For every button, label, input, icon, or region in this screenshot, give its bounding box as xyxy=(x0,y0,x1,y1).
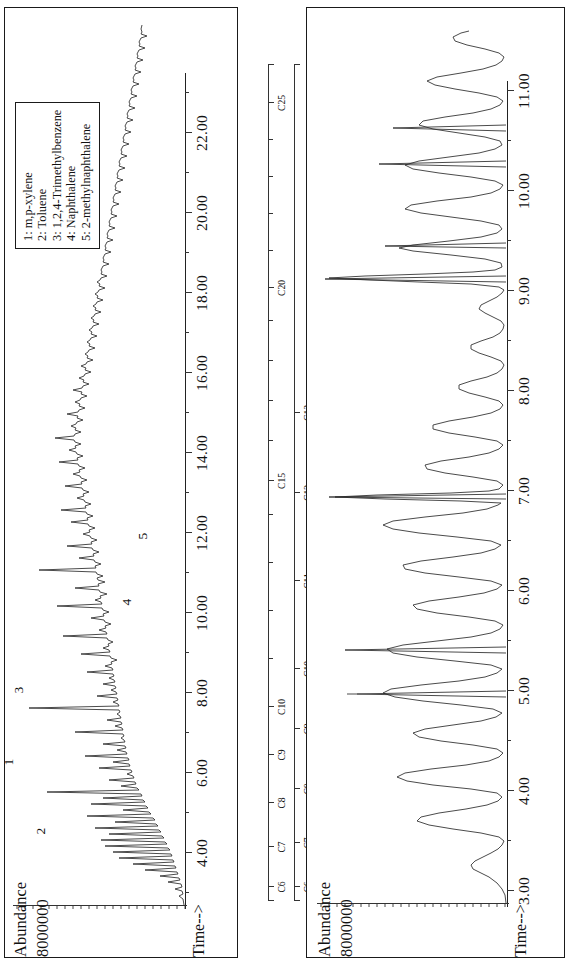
panel-top-y-axis-value: 8000000 xyxy=(33,899,53,957)
panel-bottom-trace-svg xyxy=(321,31,507,903)
x-tick-minor xyxy=(507,140,511,141)
x-tick xyxy=(507,890,514,891)
x-tick-label: 11.00 xyxy=(515,73,533,108)
x-tick-label: 18.00 xyxy=(193,275,211,311)
x-tick xyxy=(185,452,192,453)
x-tick xyxy=(507,490,514,491)
x-tick xyxy=(507,690,514,691)
x-tick-minor xyxy=(507,440,511,441)
x-tick-label: 10.00 xyxy=(193,595,211,631)
x-tick xyxy=(507,90,514,91)
x-tick-minor xyxy=(507,240,511,241)
x-tick-minor xyxy=(507,540,511,541)
panel-top-rotated-canvas: 4.00 6.00 8.00 10.00 12.00 14.00 16.00 1… xyxy=(5,8,239,959)
x-tick-label: 8.00 xyxy=(193,679,211,707)
x-tick xyxy=(185,772,192,773)
x-tick xyxy=(185,372,192,373)
panel-bottom-x-axis-title: Time--> xyxy=(512,904,530,957)
x-tick-label: 4.00 xyxy=(515,777,533,805)
x-tick-label: 5.00 xyxy=(515,677,533,705)
x-tick-label: 9.00 xyxy=(515,277,533,305)
x-tick xyxy=(185,692,192,693)
x-tick-label: 3.00 xyxy=(515,877,533,905)
x-tick-minor xyxy=(185,572,189,573)
x-tick-minor xyxy=(185,732,189,733)
panel-bottom-y-axis-value: 8000000 xyxy=(337,899,357,957)
chromatogram-panel-bottom: 3.00 4.00 5.00 6.00 7.00 8.00 9.00 10.00… xyxy=(306,7,565,958)
x-tick-minor xyxy=(507,840,511,841)
x-tick xyxy=(185,132,192,133)
panel-bottom-rotated-canvas: 3.00 4.00 5.00 6.00 7.00 8.00 9.00 10.00… xyxy=(307,8,566,959)
legend-item: 1: m,p-xylene xyxy=(21,110,35,241)
peak-label-3: 3 xyxy=(11,687,27,694)
x-tick-minor xyxy=(507,740,511,741)
x-tick-minor xyxy=(185,892,189,893)
peak-label-4: 4 xyxy=(119,599,135,606)
x-tick-label: 4.00 xyxy=(193,839,211,867)
peak-label-2: 2 xyxy=(33,828,49,835)
x-tick xyxy=(185,292,192,293)
x-tick xyxy=(507,190,514,191)
legend-item: 3: 1,2,4-Trimethylbenzene xyxy=(50,110,64,241)
legend-item: 5: 2-methylnaphthalene xyxy=(79,110,93,241)
x-tick-label: 7.00 xyxy=(515,477,533,505)
carbon-scale-inner-wrapper: C6 C7 C8 C9 C10 C11 C12 C13 xyxy=(272,0,306,951)
legend-item: 4: Naphthalene xyxy=(64,110,78,241)
x-tick-minor xyxy=(185,92,189,93)
x-tick xyxy=(185,612,192,613)
x-tick-minor xyxy=(507,640,511,641)
panel-bottom-y-axis-title: Abundance xyxy=(315,882,335,957)
x-tick-label: 14.00 xyxy=(193,435,211,471)
peak-label-1: 1 xyxy=(1,759,17,766)
x-tick xyxy=(185,532,192,533)
x-tick xyxy=(185,212,192,213)
x-tick-label: 6.00 xyxy=(193,759,211,787)
x-tick-minor xyxy=(185,492,189,493)
panel-bottom-x-axis-line xyxy=(507,81,508,907)
x-tick-label: 12.00 xyxy=(193,515,211,551)
x-tick xyxy=(507,390,514,391)
panel-top-x-axis-title: Time--> xyxy=(190,904,208,957)
chromatogram-panel-top: 4.00 6.00 8.00 10.00 12.00 14.00 16.00 1… xyxy=(4,7,238,958)
x-tick xyxy=(507,290,514,291)
x-tick-label: 22.00 xyxy=(193,115,211,151)
x-tick xyxy=(507,590,514,591)
x-tick-minor xyxy=(185,412,189,413)
x-tick-minor xyxy=(185,252,189,253)
legend-item: 2: Toluene xyxy=(35,110,49,241)
x-tick-minor xyxy=(185,172,189,173)
x-tick-label: 10.00 xyxy=(515,173,533,209)
panel-top-x-axis-line xyxy=(185,73,186,909)
x-tick xyxy=(185,852,192,853)
x-tick-minor xyxy=(185,652,189,653)
x-tick xyxy=(507,790,514,791)
x-tick-label: 8.00 xyxy=(515,377,533,405)
x-tick-minor xyxy=(507,340,511,341)
x-tick-minor xyxy=(185,812,189,813)
compound-legend: 1: m,p-xylene 2: Toluene 3: 1,2,4-Trimet… xyxy=(15,102,100,249)
peak-label-5: 5 xyxy=(135,533,151,540)
panel-top-y-axis-title: Abundance xyxy=(11,882,31,957)
x-tick-label: 6.00 xyxy=(515,577,533,605)
x-tick-label: 16.00 xyxy=(193,355,211,391)
x-tick-label: 20.00 xyxy=(193,195,211,231)
x-tick-minor xyxy=(185,332,189,333)
